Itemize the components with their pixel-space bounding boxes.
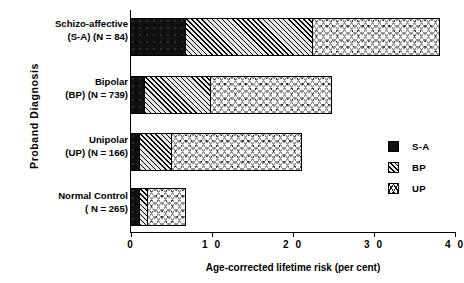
bar-segment-bp <box>144 76 212 114</box>
bar-row-schizo-affective <box>131 18 455 56</box>
category-label-line2: (S-A) (N = 84) <box>16 31 128 44</box>
bar-segment-up <box>312 18 440 56</box>
x-axis-tick-label: 3 0 <box>364 239 384 250</box>
category-label-normal-control: Normal Control ( N = 265) <box>16 190 128 215</box>
legend-item-up: UP <box>388 178 429 199</box>
category-label-bipolar: Bipolar (BP) (N = 739) <box>16 76 128 101</box>
legend-label-up: UP <box>412 183 426 194</box>
x-axis-tick <box>374 232 375 237</box>
legend-item-sa: S-A <box>388 136 429 157</box>
bar-segment-sa <box>130 18 186 56</box>
x-axis-tick <box>212 232 213 237</box>
category-label-unipolar: Unipolar (UP) (N = 166) <box>16 134 128 159</box>
x-axis-tick-label: 4 0 <box>445 239 464 250</box>
legend-item-bp: BP <box>388 157 429 178</box>
legend-label-bp: BP <box>412 162 426 173</box>
category-label-line1: Schizo-affective <box>55 18 128 29</box>
category-label-line1: Normal Control <box>58 190 128 201</box>
legend-label-sa: S-A <box>412 141 429 152</box>
legend: S-A BP UP <box>388 136 429 199</box>
x-axis-title: Age-corrected lifetime risk (per cent) <box>131 262 455 273</box>
x-axis-tick-label: 0 <box>127 239 135 250</box>
bar-chart: Proband Diagnosis Schizo-affective (S-A)… <box>0 0 464 283</box>
x-axis-tick-label: 1 0 <box>202 239 222 250</box>
category-label-schizo-affective: Schizo-affective (S-A) (N = 84) <box>16 18 128 43</box>
category-label-line2: ( N = 265) <box>16 203 128 216</box>
legend-swatch-up-icon <box>388 183 399 194</box>
legend-swatch-bp-icon <box>388 162 399 173</box>
x-axis-tick <box>131 232 132 237</box>
bar-segment-bp <box>139 133 173 171</box>
bar-segment-bp <box>185 18 313 56</box>
category-label-line2: (UP) (N = 166) <box>16 147 128 160</box>
category-label-line2: (BP) (N = 739) <box>16 89 128 102</box>
category-label-line1: Unipolar <box>89 134 128 145</box>
x-axis-tick-label: 2 0 <box>283 239 303 250</box>
bar-segment-up <box>210 76 332 114</box>
x-axis-tick <box>455 232 456 237</box>
bar-row-bipolar <box>131 76 455 114</box>
bar-segment-up <box>171 133 302 171</box>
category-label-line1: Bipolar <box>95 76 128 87</box>
legend-swatch-sa-icon <box>388 141 399 152</box>
bar-segment-sa <box>130 76 145 114</box>
x-axis-tick <box>293 232 294 237</box>
bar-segment-up <box>147 188 186 226</box>
category-label-group: Schizo-affective (S-A) (N = 84) Bipolar … <box>8 0 128 240</box>
